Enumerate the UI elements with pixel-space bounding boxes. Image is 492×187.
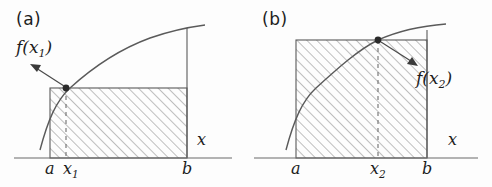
fx1-label-sub: 1 xyxy=(39,47,46,60)
tick-label-b-b: b xyxy=(422,159,432,178)
tick-label-x2-main: x xyxy=(370,159,379,178)
hatched-rectangle-b xyxy=(296,40,427,158)
tick-label-a-left: a xyxy=(45,159,55,178)
tick-label-b-a: b xyxy=(182,159,192,178)
fx2-label-sub: 2 xyxy=(439,78,446,91)
panel-a-caption: (a) xyxy=(16,9,41,29)
fx2-label: f(x2) xyxy=(416,68,452,91)
figure-riemann-rectangles: (a) f(x1) x a x1 b xyxy=(0,0,492,187)
hatched-rectangle-a xyxy=(50,88,187,158)
tick-label-x2: x2 xyxy=(370,159,386,180)
tick-label-x1-main: x xyxy=(63,159,72,178)
fx2-label-close: ) xyxy=(446,68,453,88)
panel-b: (b) f(x2) x a x2 b xyxy=(246,0,492,187)
panel-b-caption: (b) xyxy=(262,9,288,29)
fx2-label-main: f(x xyxy=(416,68,439,88)
panel-a: (a) f(x1) x a x1 b xyxy=(0,0,246,187)
x-axis-label-a: x xyxy=(197,130,206,149)
x-axis-label-b: x xyxy=(448,130,457,149)
tick-label-a-b: a xyxy=(291,159,301,178)
fx1-label-main: f(x xyxy=(16,37,39,57)
fx1-label: f(x1) xyxy=(16,37,52,60)
tick-label-x1-sub: 1 xyxy=(72,168,79,180)
tick-label-x2-sub: 2 xyxy=(379,168,386,180)
fx1-label-close: ) xyxy=(46,37,53,57)
tick-label-x1: x1 xyxy=(63,159,79,180)
intersection-point-x2 xyxy=(375,37,382,44)
